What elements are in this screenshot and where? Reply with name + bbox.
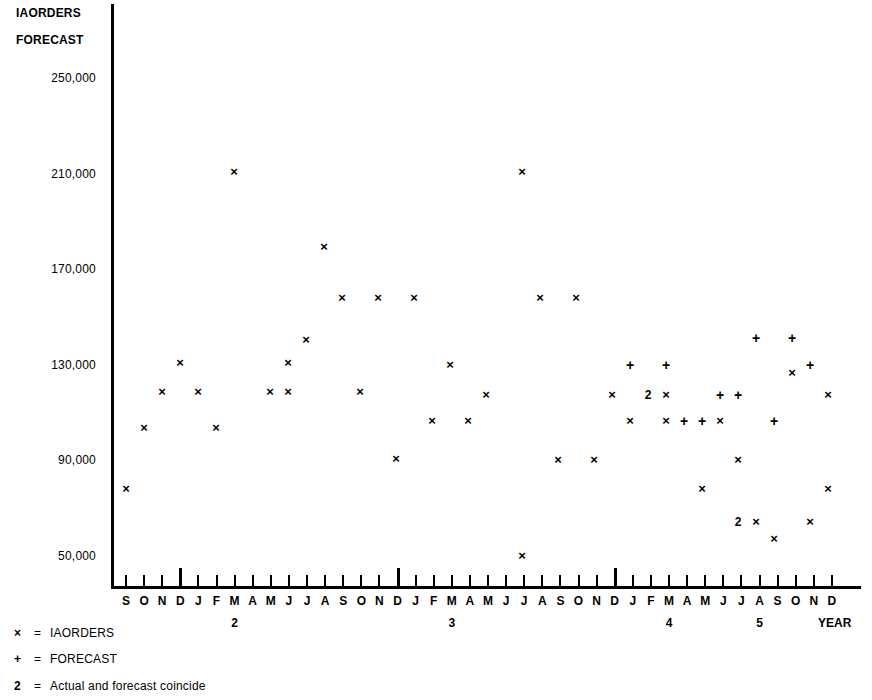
x-axis-month-label: A [461,594,479,608]
data-point-forecast: + [749,332,763,344]
data-point-forecast: + [767,415,781,427]
x-axis-tick [722,575,724,589]
x-axis-month-label: M [696,594,714,608]
data-point-actual: × [299,334,313,346]
data-point-actual: × [767,533,781,545]
x-axis-month-label: D [606,594,624,608]
x-axis-month-label: O [135,594,153,608]
data-point-actual: × [281,386,295,398]
data-point-forecast: + [731,389,745,401]
data-point-actual: × [659,415,673,427]
x-axis-month-label: N [153,594,171,608]
data-point-actual: × [515,550,529,562]
x-axis-month-label: M [262,594,280,608]
x-axis-month-label: N [370,594,388,608]
x-axis-year-label: 5 [749,616,771,630]
x-axis-month-label: D [823,594,841,608]
x-axis-tick [614,568,617,589]
legend-item-iaorders: ×=IAORDERS [14,626,114,640]
x-axis-month-label: N [805,594,823,608]
x-axis-month-label: A [751,594,769,608]
data-point-actual: × [749,516,763,528]
data-point-forecast: + [659,359,673,371]
x-axis-tick [451,575,453,589]
x-axis-tick [397,568,400,589]
y-axis-tick-label: 170,000 [20,262,96,276]
data-point-actual: × [587,454,601,466]
x-axis-tick [686,575,688,589]
data-point-actual: × [569,292,583,304]
x-axis-tick [632,575,634,589]
x-axis-month-label: J [714,594,732,608]
x-axis-tick [143,575,145,589]
x-axis-month-label: N [588,594,606,608]
y-axis-tick-label: 50,000 [20,549,96,563]
data-point-actual: × [821,389,835,401]
data-point-actual: × [263,386,277,398]
data-point-actual: × [209,422,223,434]
x-axis-month-label: O [570,594,588,608]
x-axis-tick [831,575,833,589]
x-axis-month-label: M [226,594,244,608]
data-point-forecast: + [695,415,709,427]
data-point-forecast: + [803,359,817,371]
data-point-actual: × [407,292,421,304]
data-point-actual: × [119,483,133,495]
data-point-forecast: + [623,359,637,371]
x-axis-tick [216,575,218,589]
x-axis-month-label: A [244,594,262,608]
x-axis-month-label: S [334,594,352,608]
data-point-actual: × [821,483,835,495]
data-point-actual: × [713,415,727,427]
x-axis-month-label: A [678,594,696,608]
legend-equals-1: = [34,652,50,666]
data-point-actual: × [353,386,367,398]
data-point-forecast: + [785,332,799,344]
x-axis-tick [469,575,471,589]
data-point-actual: × [443,359,457,371]
legend-symbol-plus: + [14,652,34,666]
x-axis-tick [270,575,272,589]
data-point-actual: × [155,386,169,398]
data-point-actual: × [533,292,547,304]
x-axis-month-label: M [443,594,461,608]
x-axis-line [111,586,861,589]
x-axis-tick [324,575,326,589]
x-axis-month-label: F [208,594,226,608]
x-axis-month-label: S [551,594,569,608]
x-axis-tick [197,575,199,589]
y-axis-tick-label: 210,000 [20,167,96,181]
data-point-actual: × [731,454,745,466]
x-axis-tick [433,575,435,589]
data-point-coincide: 2 [641,389,655,401]
x-axis-tick [759,575,761,589]
x-axis-month-label: S [117,594,135,608]
y-axis-tick-label: 90,000 [20,453,96,467]
legend-item-coincide: 2=Actual and forecast coincide [14,679,206,693]
x-axis-tick [234,575,236,589]
x-axis-month-label: J [732,594,750,608]
data-point-actual: × [317,241,331,253]
x-axis-tick [704,575,706,589]
data-point-actual: × [227,166,241,178]
data-point-actual: × [389,453,403,465]
data-point-actual: × [803,516,817,528]
legend-symbol-x: × [14,626,34,640]
data-point-actual: × [371,292,385,304]
y-axis-title-line1: IAORDERS [16,6,81,20]
x-axis-tick [596,575,598,589]
x-axis-month-label: J [497,594,515,608]
x-axis-month-label: D [171,594,189,608]
x-axis-tick [740,575,742,589]
legend-item-forecast: +=FORECAST [14,652,117,666]
x-axis-tick [668,575,670,589]
x-axis-year-label: 4 [658,616,680,630]
x-axis-tick [505,575,507,589]
data-point-actual: × [173,357,187,369]
x-axis-tick [813,575,815,589]
data-point-forecast: + [677,415,691,427]
x-axis-tick [795,575,797,589]
data-point-actual: × [623,415,637,427]
data-point-actual: × [515,166,529,178]
data-point-actual: × [425,415,439,427]
